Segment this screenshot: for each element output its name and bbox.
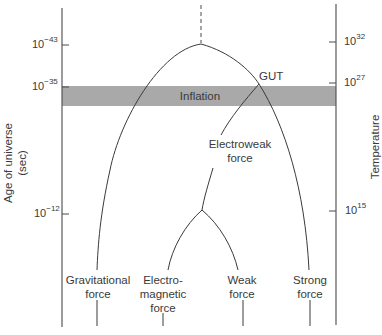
gravitational-force-label: Gravitational force bbox=[62, 273, 134, 301]
electromagnetic-branch bbox=[168, 210, 202, 270]
right-tick-label-27: 1027 bbox=[344, 76, 365, 88]
strong-branch bbox=[259, 84, 309, 270]
weak-force-label: Weak force bbox=[222, 273, 262, 301]
gut-branch bbox=[201, 44, 259, 84]
electroweak-label: Electroweak force bbox=[198, 137, 282, 165]
weak-branch bbox=[202, 210, 238, 270]
inflation-label: Inflation bbox=[170, 89, 230, 103]
left-tick-label-35: 10−35 bbox=[32, 80, 58, 92]
right-tick-label-15: 1015 bbox=[345, 204, 366, 216]
gut-label: GUT bbox=[259, 69, 283, 83]
left-tick-label-43: 10−43 bbox=[32, 38, 58, 50]
strong-force-label: Strong force bbox=[288, 273, 332, 301]
electromagnetic-force-label: Electro- magnetic force bbox=[135, 273, 191, 315]
right-axis-title: Temperature bbox=[368, 102, 382, 192]
right-tick-label-32: 1032 bbox=[344, 35, 365, 47]
left-tick-label-12: 10−12 bbox=[34, 207, 60, 219]
gravitational-branch bbox=[97, 44, 201, 270]
electroweak-branch-lower bbox=[202, 168, 213, 210]
left-axis-title: Age of universe (sec) bbox=[1, 108, 31, 218]
